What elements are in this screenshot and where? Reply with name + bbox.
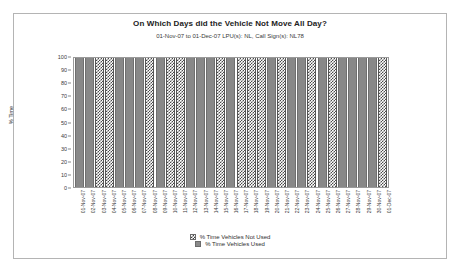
bar-column[interactable] [246,58,256,187]
x-axis-tick: 15-Nov-07 [216,189,226,231]
x-axis-tick: 08-Nov-07 [144,189,154,231]
bar-column[interactable] [135,58,145,187]
bar-column[interactable] [236,58,246,187]
chart-figure: On Which Days did the Vehicle Not Move A… [0,0,460,272]
x-axis-tick: 25-Nov-07 [318,189,328,231]
x-axis-tick: 05-Nov-07 [114,189,124,231]
bar-column[interactable] [145,58,155,187]
y-axis-tick-label: 60 [61,106,67,112]
legend-item-not-used: % Time Vehicles Not Used [190,234,271,240]
y-axis-tick-mark [68,96,71,97]
bar-column[interactable] [196,58,206,187]
bar-column[interactable] [216,58,226,187]
x-axis-tick: 14-Nov-07 [205,189,215,231]
x-axis-tick: 06-Nov-07 [124,189,134,231]
bar-column[interactable] [175,58,185,187]
bar-segment-used [115,58,124,187]
x-axis-tick: 27-Nov-07 [338,189,348,231]
bar-segment-used [156,58,165,187]
bar-column[interactable] [307,58,317,187]
x-axis-tick: 17-Nov-07 [236,189,246,231]
bar-segment-used [196,58,205,187]
bar-column[interactable] [327,58,337,187]
x-axis-tick: 19-Nov-07 [256,189,266,231]
y-axis-tick-mark [68,174,71,175]
y-axis-tick-label: 20 [61,159,67,165]
bar-column[interactable] [185,58,195,187]
bar-segment-used [368,58,377,187]
y-axis-tick-label: 70 [61,93,67,99]
bar-segment-not-used [277,58,286,187]
bar-segment-used [206,58,215,187]
x-axis-tick: 28-Nov-07 [348,189,358,231]
chart-subtitle: 01-Nov-07 to 01-Dec-07 LPU(s): NL, Call … [0,33,460,39]
bar-segment-not-used [378,58,387,187]
y-axis-tick-mark [68,70,71,71]
bar-column[interactable] [84,58,94,187]
chart-title: On Which Days did the Vehicle Not Move A… [0,19,460,28]
bar-series-container [74,58,388,187]
y-axis-tick-mark [68,122,71,123]
bar-column[interactable] [277,58,287,187]
bar-segment-not-used [95,58,104,187]
x-axis-tick: 10-Nov-07 [165,189,175,231]
bar-segment-used [135,58,144,187]
bar-segment-used [186,58,195,187]
bar-column[interactable] [94,58,104,187]
x-axis-tick: 07-Nov-07 [134,189,144,231]
y-axis-label: % Time [8,85,14,145]
x-axis-tick: 20-Nov-07 [267,189,277,231]
bar-column[interactable] [125,58,135,187]
bar-column[interactable] [74,58,84,187]
x-axis-ticks: 01-Nov-0702-Nov-0703-Nov-0704-Nov-0705-N… [73,189,389,231]
y-axis-tick-label: 40 [61,133,67,139]
bar-column[interactable] [368,58,378,187]
legend-label-used: % Time Vehicles Used [205,241,265,247]
y-axis-ticks: 1009080706050403020100 [45,57,71,188]
bar-column[interactable] [165,58,175,187]
bar-segment-used [358,58,367,187]
bar-column[interactable] [347,58,357,187]
bar-column[interactable] [358,58,368,187]
bar-column[interactable] [206,58,216,187]
bar-segment-used [75,58,84,187]
bar-column[interactable] [104,58,114,187]
bar-segment-not-used [247,58,256,187]
x-axis-tick: 11-Nov-07 [175,189,185,231]
bar-column[interactable] [155,58,165,187]
bar-column[interactable] [378,58,388,187]
x-axis-tick: 09-Nov-07 [155,189,165,231]
bar-column[interactable] [115,58,125,187]
bar-column[interactable] [266,58,276,187]
x-axis-tick: 23-Nov-07 [297,189,307,231]
bar-column[interactable] [256,58,266,187]
chart-legend: % Time Vehicles Not Used % Time Vehicles… [0,234,460,247]
x-axis-tick: 12-Nov-07 [185,189,195,231]
bar-column[interactable] [226,58,236,187]
bar-segment-used [287,58,296,187]
x-axis-tick: 13-Nov-07 [195,189,205,231]
bar-segment-used [226,58,235,187]
y-axis-tick-mark [68,188,71,189]
x-axis-tick: 01-Dec-07 [379,189,389,231]
y-axis-tick-mark [68,148,71,149]
bar-segment-used [318,58,327,187]
bar-segment-not-used [176,58,185,187]
bar-column[interactable] [317,58,327,187]
bar-segment-not-used [328,58,337,187]
x-axis-tick: 22-Nov-07 [287,189,297,231]
bar-segment-used [338,58,347,187]
bar-segment-used [348,58,357,187]
bar-segment-not-used [145,58,154,187]
legend-swatch-used-icon [195,241,201,247]
legend-item-used: % Time Vehicles Used [195,241,265,247]
y-axis-tick-mark [68,161,71,162]
bar-segment-not-used [307,58,316,187]
x-axis-tick: 16-Nov-07 [226,189,236,231]
x-axis-tick: 02-Nov-07 [83,189,93,231]
y-axis-tick-label: 30 [61,146,67,152]
bar-column[interactable] [287,58,297,187]
bar-column[interactable] [337,58,347,187]
plot-area [73,57,389,188]
bar-column[interactable] [297,58,307,187]
